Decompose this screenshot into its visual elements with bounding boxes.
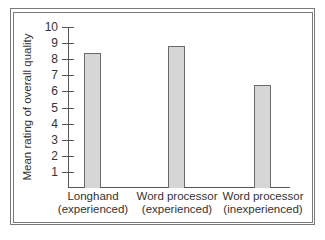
x-category-label-line1: Word processor bbox=[218, 190, 308, 203]
y-tick-label: 3 bbox=[38, 134, 58, 146]
y-tick bbox=[62, 140, 74, 141]
bar bbox=[168, 46, 185, 188]
x-category-label-line2: (experienced) bbox=[48, 203, 138, 216]
y-tick bbox=[62, 43, 74, 44]
x-category-label-line2: (inexperienced) bbox=[218, 203, 308, 216]
y-tick bbox=[62, 59, 74, 60]
y-tick-label: 1 bbox=[38, 166, 58, 178]
y-tick-label: 8 bbox=[38, 53, 58, 65]
y-axis-label: Mean rating of overall quality bbox=[21, 33, 33, 180]
x-category-label: Longhand(experienced) bbox=[48, 190, 138, 216]
y-tick bbox=[62, 91, 74, 92]
y-tick-label: 5 bbox=[38, 102, 58, 114]
x-category-label-line2: (experienced) bbox=[132, 203, 222, 216]
y-tick-label: 6 bbox=[38, 85, 58, 97]
x-category-label-line1: Longhand bbox=[48, 190, 138, 203]
y-tick-label: 2 bbox=[38, 150, 58, 162]
y-tick-label: 4 bbox=[38, 118, 58, 130]
y-tick bbox=[62, 108, 74, 109]
y-tick-label: 7 bbox=[38, 69, 58, 81]
y-tick-label: 10 bbox=[38, 21, 58, 33]
x-category-label: Word processor(experienced) bbox=[132, 190, 222, 216]
bar bbox=[254, 85, 271, 188]
y-tick bbox=[62, 75, 74, 76]
bar bbox=[84, 53, 101, 188]
x-category-label: Word processor(inexperienced) bbox=[218, 190, 308, 216]
y-tick bbox=[62, 124, 74, 125]
y-tick bbox=[62, 172, 74, 173]
y-tick-label: 9 bbox=[38, 37, 58, 49]
y-tick bbox=[62, 156, 74, 157]
x-category-label-line1: Word processor bbox=[132, 190, 222, 203]
y-tick bbox=[62, 27, 74, 28]
